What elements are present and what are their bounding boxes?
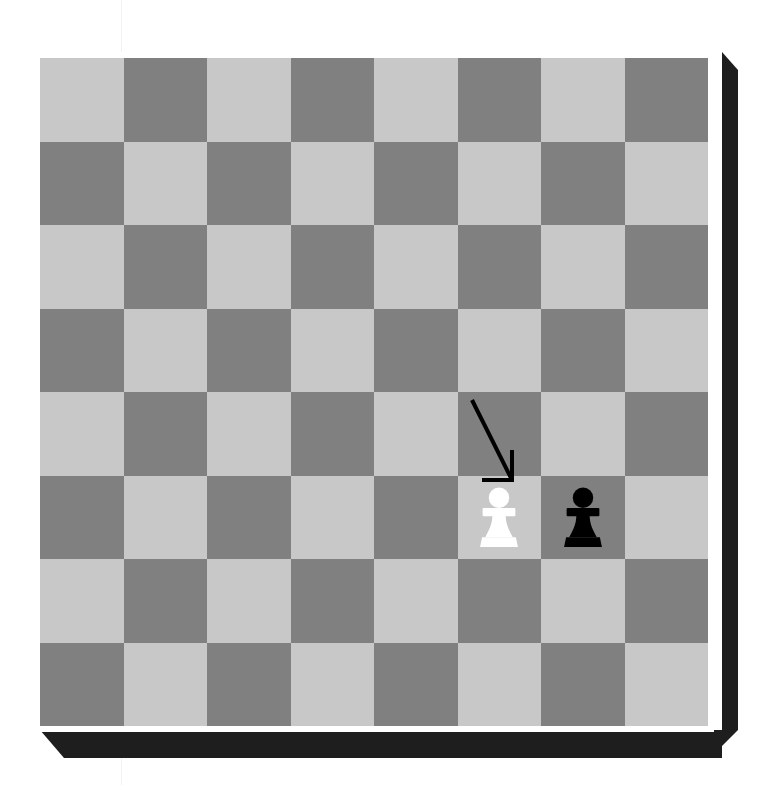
board-square-3-4[interactable] (291, 392, 375, 476)
board-square-4-6[interactable] (374, 559, 458, 643)
board-square-3-3[interactable] (291, 309, 375, 393)
board-square-7-5[interactable] (625, 476, 709, 560)
chess-scene (0, 0, 779, 785)
board-square-1-1[interactable] (124, 142, 208, 226)
board-square-6-4[interactable] (541, 392, 625, 476)
board-square-2-0[interactable] (207, 58, 291, 142)
board-square-4-2[interactable] (374, 225, 458, 309)
board-square-3-6[interactable] (291, 559, 375, 643)
board-square-7-3[interactable] (625, 309, 709, 393)
board-square-6-6[interactable] (541, 559, 625, 643)
board-square-7-2[interactable] (625, 225, 709, 309)
board-square-2-6[interactable] (207, 559, 291, 643)
board-square-1-4[interactable] (124, 392, 208, 476)
white-pawn[interactable] (473, 487, 525, 550)
chess-board[interactable] (40, 58, 708, 726)
board-square-0-4[interactable] (40, 392, 124, 476)
board-square-3-0[interactable] (291, 58, 375, 142)
board-square-5-6[interactable] (458, 559, 542, 643)
board-square-4-7[interactable] (374, 643, 458, 727)
board-square-4-1[interactable] (374, 142, 458, 226)
board-square-0-1[interactable] (40, 142, 124, 226)
board-square-4-5[interactable] (374, 476, 458, 560)
board-square-3-5[interactable] (291, 476, 375, 560)
white-pawn-glyph (473, 487, 525, 550)
board-square-5-2[interactable] (458, 225, 542, 309)
board-square-4-0[interactable] (374, 58, 458, 142)
board-square-5-1[interactable] (458, 142, 542, 226)
board-square-0-3[interactable] (40, 309, 124, 393)
board-square-4-4[interactable] (374, 392, 458, 476)
board-square-3-2[interactable] (291, 225, 375, 309)
board-square-0-5[interactable] (40, 476, 124, 560)
board-square-1-7[interactable] (124, 643, 208, 727)
board-square-1-5[interactable] (124, 476, 208, 560)
board-square-0-2[interactable] (40, 225, 124, 309)
board-square-2-1[interactable] (207, 142, 291, 226)
board-square-1-3[interactable] (124, 309, 208, 393)
black-pawn-glyph (557, 487, 609, 550)
board-square-3-7[interactable] (291, 643, 375, 727)
board-square-6-2[interactable] (541, 225, 625, 309)
black-pawn[interactable] (557, 487, 609, 550)
board-square-6-3[interactable] (541, 309, 625, 393)
board-square-6-5[interactable] (541, 476, 625, 560)
board-square-2-3[interactable] (207, 309, 291, 393)
board-square-2-4[interactable] (207, 392, 291, 476)
board-square-0-6[interactable] (40, 559, 124, 643)
board-square-7-6[interactable] (625, 559, 709, 643)
board-square-6-1[interactable] (541, 142, 625, 226)
board-square-7-1[interactable] (625, 142, 709, 226)
board-square-7-4[interactable] (625, 392, 709, 476)
board-square-1-6[interactable] (124, 559, 208, 643)
board-square-1-0[interactable] (124, 58, 208, 142)
board-square-4-3[interactable] (374, 309, 458, 393)
board-square-5-4[interactable] (458, 392, 542, 476)
board-square-7-7[interactable] (625, 643, 709, 727)
board-square-5-7[interactable] (458, 643, 542, 727)
board-square-0-7[interactable] (40, 643, 124, 727)
board-square-6-7[interactable] (541, 643, 625, 727)
board-square-2-7[interactable] (207, 643, 291, 727)
board-square-5-3[interactable] (458, 309, 542, 393)
board-square-5-0[interactable] (458, 58, 542, 142)
board-square-6-0[interactable] (541, 58, 625, 142)
board-square-0-0[interactable] (40, 58, 124, 142)
board-square-5-5[interactable] (458, 476, 542, 560)
board-square-7-0[interactable] (625, 58, 709, 142)
board-square-2-2[interactable] (207, 225, 291, 309)
board-square-1-2[interactable] (124, 225, 208, 309)
board-square-3-1[interactable] (291, 142, 375, 226)
board-square-2-5[interactable] (207, 476, 291, 560)
